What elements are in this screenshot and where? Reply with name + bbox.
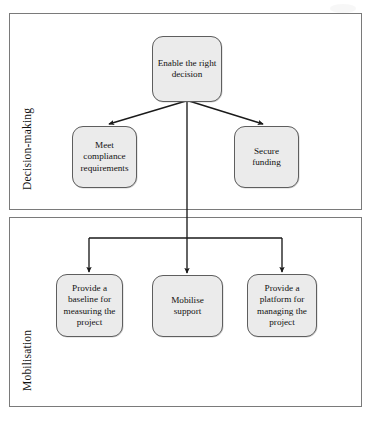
node-label: Enable the right decision bbox=[157, 58, 217, 81]
node-label: Meet compliance requirements bbox=[77, 140, 132, 174]
panel-label-mobilisation: Mobilisation bbox=[21, 231, 33, 391]
node-mobilise-support[interactable]: Mobilise support bbox=[152, 275, 223, 337]
diagram-canvas: Decision-making Mobilisation Enable the … bbox=[0, 0, 371, 422]
node-meet-compliance-requirements[interactable]: Meet compliance requirements bbox=[72, 126, 137, 188]
node-provide-a-baseline[interactable]: Provide a baseline for measuring the pro… bbox=[56, 274, 123, 337]
scan-artifact bbox=[330, 4, 356, 13]
panel-label-decision-making: Decision-making bbox=[21, 30, 33, 190]
node-label: Secure funding bbox=[239, 146, 294, 169]
node-secure-funding[interactable]: Secure funding bbox=[234, 126, 299, 188]
node-label: Provide a baseline for measuring the pro… bbox=[61, 283, 118, 329]
node-enable-the-right-decision[interactable]: Enable the right decision bbox=[152, 36, 222, 102]
node-label: Provide a platform for managing the proj… bbox=[252, 283, 312, 329]
node-label: Mobilise support bbox=[157, 295, 218, 318]
node-provide-a-platform[interactable]: Provide a platform for managing the proj… bbox=[247, 274, 317, 337]
